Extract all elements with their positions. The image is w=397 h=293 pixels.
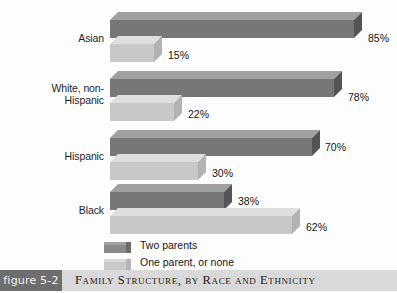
category-label-line1: White, non- (51, 82, 104, 94)
chart-legend: Two parents One parent, or none (104, 237, 234, 271)
legend-label-one-parent-or-none: One parent, or none (140, 256, 234, 268)
category-label-white-non-hispanic: White, non- Hispanic (8, 83, 104, 106)
value-label-two-parents-white-non-hispanic: 78% (348, 91, 369, 103)
value-label-two-parents-black: 38% (238, 195, 259, 207)
legend-item-one-parent-or-none: One parent, or none (104, 254, 234, 269)
category-label-black: Black (8, 205, 104, 217)
bar-one-parent-asian (110, 36, 162, 58)
category-label-line1: Black (79, 204, 104, 216)
category-label-line1: Asian (78, 32, 104, 44)
bar-two-parents-asian (110, 12, 362, 34)
legend-swatch-two-parents (104, 239, 131, 250)
bar-one-parent-black (110, 208, 300, 230)
legend-item-two-parents: Two parents (104, 237, 234, 252)
bar-two-parents-black (110, 184, 232, 206)
value-label-two-parents-hispanic: 70% (325, 141, 346, 153)
bar-shape-light (110, 208, 300, 238)
bar-shape-light (110, 36, 162, 66)
bar-shape-light (110, 154, 206, 184)
category-label-line2: Hispanic (65, 94, 104, 106)
legend-swatch-one-parent-or-none (104, 256, 131, 267)
category-label-hispanic: Hispanic (8, 151, 104, 163)
legend-swatch-shape-light (104, 259, 131, 270)
value-label-one-parent-hispanic: 30% (212, 167, 233, 179)
value-label-one-parent-asian: 15% (168, 49, 189, 61)
category-label-line1: Hispanic (65, 150, 104, 162)
figure-number-tag: figure 5-2 (0, 270, 62, 291)
bar-two-parents-white-non-hispanic (110, 71, 342, 93)
bar-one-parent-white-non-hispanic (110, 95, 182, 117)
chart-plot-area: Asian 85% 15% White, non- Hispanic (0, 0, 397, 262)
legend-swatch-shape-dark (104, 242, 131, 253)
figure-caption-bar: figure 5-2 Family Structure, by Race and… (0, 270, 397, 291)
value-label-two-parents-asian: 85% (368, 32, 389, 44)
legend-label-two-parents: Two parents (140, 239, 197, 251)
bar-two-parents-hispanic (110, 130, 320, 152)
value-label-one-parent-black: 62% (306, 221, 327, 233)
figure-caption-title: Family Structure, by Race and Ethnicity (75, 273, 316, 288)
bar-one-parent-hispanic (110, 154, 206, 176)
bar-shape-light (110, 95, 182, 125)
value-label-one-parent-white-non-hispanic: 22% (188, 108, 209, 120)
category-label-asian: Asian (8, 33, 104, 45)
